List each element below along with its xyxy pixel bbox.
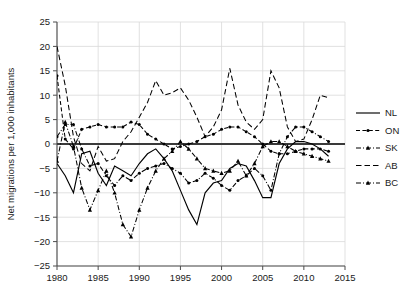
- series-marker-bc: [55, 159, 59, 163]
- y-tick-label: −20: [34, 236, 50, 247]
- y-tick-label: 20: [39, 41, 50, 52]
- series-marker-on: [105, 125, 108, 128]
- chart-root: 1980198519901995200020052010201525201510…: [0, 0, 419, 305]
- series-marker-sk: [162, 162, 165, 165]
- series-marker-on: [187, 143, 190, 146]
- series-marker-on: [88, 125, 91, 128]
- series-marker-on: [286, 152, 289, 155]
- legend-label-on[interactable]: ON: [385, 125, 399, 136]
- series-marker-on: [319, 147, 322, 150]
- y-axis-title: Net migrations per 1,000 inhabitants: [5, 67, 16, 220]
- series-marker-bc: [219, 171, 223, 175]
- series-marker-sk: [187, 182, 190, 185]
- series-marker-sk: [195, 179, 198, 182]
- series-marker-sk: [269, 189, 272, 192]
- series-marker-sk: [113, 184, 116, 187]
- series-marker-on: [179, 145, 182, 148]
- series-marker-on: [113, 125, 116, 128]
- series-marker-on: [138, 123, 141, 126]
- series-marker-on: [64, 138, 67, 141]
- series-marker-sk: [311, 130, 314, 133]
- series-marker-sk: [237, 179, 240, 182]
- series-marker-on: [220, 128, 223, 131]
- y-tick-label: 5: [45, 114, 50, 125]
- series-marker-on: [154, 138, 157, 141]
- series-marker-bc: [63, 120, 67, 124]
- series-marker-sk: [319, 135, 322, 138]
- line-chart: 1980198519901995200020052010201525201510…: [0, 0, 419, 305]
- y-tick-label: −25: [34, 260, 50, 271]
- series-layer: [55, 46, 331, 238]
- x-tick-label: 2015: [334, 272, 355, 283]
- series-marker-sk: [212, 177, 215, 180]
- series-marker-sk: [56, 135, 59, 138]
- series-marker-on: [228, 125, 231, 128]
- y-tick-label: 0: [45, 138, 50, 149]
- series-marker-sk: [97, 162, 100, 165]
- series-marker-sk: [121, 174, 124, 177]
- series-marker-sk: [220, 184, 223, 187]
- series-marker-bc: [80, 186, 84, 190]
- series-marker-sk: [80, 147, 83, 150]
- series-marker-sk: [302, 125, 305, 128]
- series-marker-on: [146, 133, 149, 136]
- series-marker-on: [237, 125, 240, 128]
- series-marker-on: [269, 150, 272, 153]
- series-marker-sk: [130, 179, 133, 182]
- x-tick-label: 1990: [129, 272, 150, 283]
- series-marker-sk: [179, 172, 182, 175]
- series-marker-sk: [228, 189, 231, 192]
- series-marker-on: [327, 150, 330, 153]
- legend-marker-on: [366, 129, 369, 132]
- series-marker-on: [80, 128, 83, 131]
- legend-label-nl[interactable]: NL: [385, 107, 397, 118]
- series-line-bc: [57, 122, 329, 237]
- y-tick-label: 25: [39, 16, 50, 27]
- series-marker-bc: [326, 159, 330, 163]
- series-marker-bc: [104, 168, 108, 172]
- series-marker-sk: [171, 167, 174, 170]
- series-marker-sk: [204, 172, 207, 175]
- series-marker-bc: [137, 207, 141, 211]
- x-tick-label: 1985: [88, 272, 109, 283]
- series-marker-sk: [327, 140, 330, 143]
- series-marker-bc: [121, 222, 125, 226]
- y-tick-label: 15: [39, 65, 50, 76]
- series-marker-on: [56, 74, 59, 77]
- series-marker-on: [311, 147, 314, 150]
- series-line-on: [57, 76, 329, 154]
- series-marker-on: [245, 130, 248, 133]
- y-tick-label: −15: [34, 212, 50, 223]
- series-marker-on: [130, 121, 133, 124]
- legend-label-bc[interactable]: BC: [385, 177, 398, 188]
- series-marker-sk: [253, 167, 256, 170]
- series-marker-on: [162, 143, 165, 146]
- y-tick-label: −5: [39, 163, 50, 174]
- series-marker-sk: [261, 174, 264, 177]
- series-marker-sk: [138, 172, 141, 175]
- series-marker-on: [212, 133, 215, 136]
- series-marker-sk: [286, 135, 289, 138]
- series-marker-sk: [88, 164, 91, 167]
- series-line-sk: [57, 124, 329, 190]
- series-marker-sk: [72, 123, 75, 126]
- x-tick-label: 2005: [252, 272, 273, 283]
- series-line-ab: [57, 46, 329, 170]
- series-marker-sk: [146, 167, 149, 170]
- series-marker-bc: [277, 139, 281, 143]
- series-marker-on: [195, 140, 198, 143]
- x-tick-label: 1995: [170, 272, 191, 283]
- series-marker-bc: [236, 159, 240, 163]
- series-marker-bc: [88, 207, 92, 211]
- legend-label-sk[interactable]: SK: [385, 142, 398, 153]
- series-marker-bc: [252, 161, 256, 165]
- x-tick-label: 1980: [46, 272, 67, 283]
- series-marker-sk: [154, 164, 157, 167]
- series-marker-on: [302, 147, 305, 150]
- series-marker-on: [97, 123, 100, 126]
- legend-label-ab[interactable]: AB: [385, 160, 398, 171]
- series-marker-on: [253, 135, 256, 138]
- series-marker-sk: [294, 125, 297, 128]
- y-tick-label: 10: [39, 90, 50, 101]
- series-marker-bc: [96, 188, 100, 192]
